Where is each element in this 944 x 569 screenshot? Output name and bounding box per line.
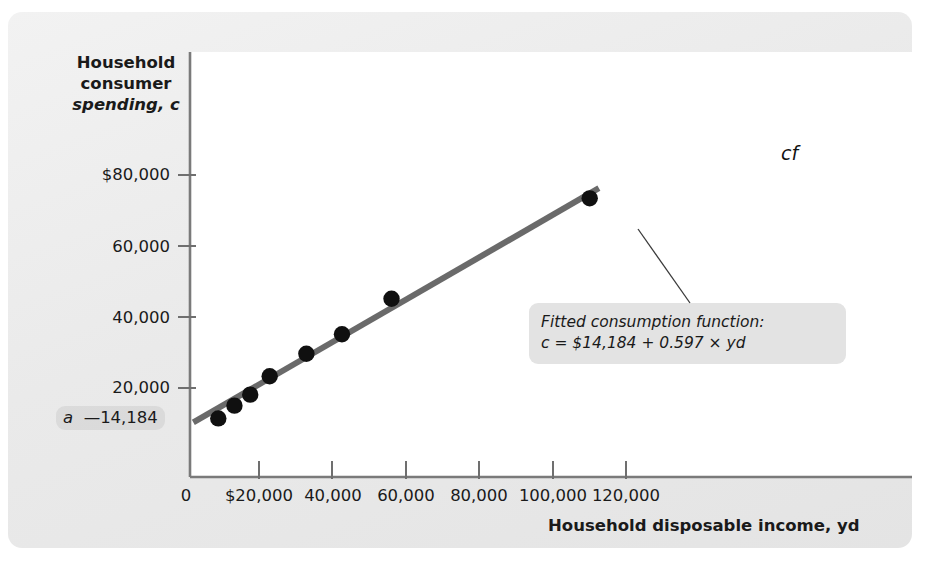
data-point (582, 190, 598, 206)
figure-container: Household consumer spending, c $80,000 6… (0, 0, 944, 569)
data-point (298, 346, 314, 362)
data-point (383, 291, 399, 307)
data-point (210, 410, 226, 426)
data-point (261, 368, 277, 384)
data-point (242, 386, 258, 402)
callout-leader-line (638, 229, 690, 303)
chart-svg (0, 0, 944, 569)
axes (178, 52, 912, 479)
data-point (226, 397, 242, 413)
data-point (334, 326, 350, 342)
